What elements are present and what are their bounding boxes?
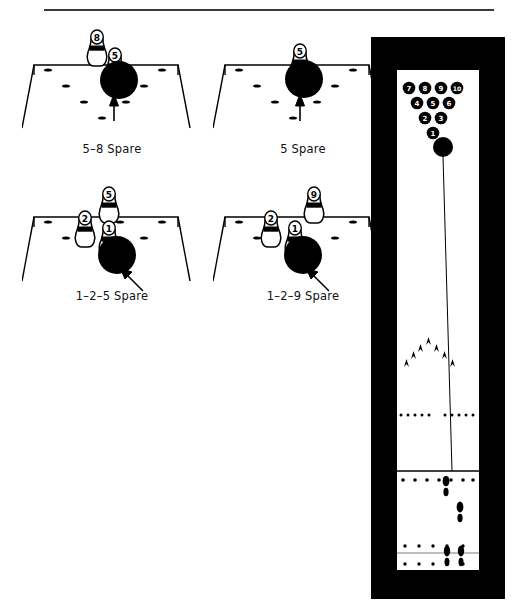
impact-arrow — [120, 268, 143, 291]
spare-diagram-5-8: 8 5 5–8 Spare — [22, 28, 202, 160]
page-root: 8 5 5–8 Spare — [0, 0, 517, 616]
spare-diagram-5-figure: 5 — [213, 28, 393, 140]
lane-pin-4-label: 4 — [415, 100, 420, 108]
bowling-ball — [285, 60, 323, 98]
header-divider-rule — [44, 9, 494, 11]
lane-diagram-figure: 7 8 9 10 4 5 6 — [371, 37, 505, 599]
spare-diagram-1-2-5-figure: 5 2 1 — [22, 175, 202, 293]
lane-pin-8-label: 8 — [423, 85, 428, 93]
spare-diagram-5: 5 5 Spare — [213, 28, 393, 160]
pin-5-number: 5 — [297, 47, 303, 57]
bowling-ball — [284, 236, 322, 274]
lane-pin-6-label: 6 — [447, 100, 452, 108]
lane-bowling-ball — [433, 137, 453, 157]
pin-1-number: 1 — [292, 224, 298, 234]
lane-pin-3-label: 3 — [439, 115, 444, 123]
pin-8: 8 — [87, 30, 107, 66]
lane-pin-5-label: 5 — [431, 100, 436, 108]
lane-pin-7-label: 7 — [407, 85, 412, 93]
pin-5-number: 5 — [112, 51, 118, 61]
lane-diagram: 7 8 9 10 4 5 6 — [371, 37, 505, 599]
lane-pin-9-label: 9 — [439, 85, 444, 93]
impact-arrow — [306, 268, 329, 291]
pin-9: 9 — [304, 187, 324, 223]
pin-row-third: 4 5 6 — [411, 97, 456, 110]
pin-8-number: 8 — [94, 33, 100, 43]
pin-2-number: 2 — [82, 214, 88, 224]
pin-row-head: 1 — [427, 127, 440, 140]
impact-arrow — [296, 94, 305, 121]
lane-pin-10-label: 10 — [453, 85, 462, 92]
pin-2-number: 2 — [268, 214, 274, 224]
spare-diagram-5-8-figure: 8 5 — [22, 28, 202, 140]
spare-diagram-1-2-9: 9 2 1 1–2–9 Spare — [213, 175, 393, 310]
spare-diagram-5-caption: 5 Spare — [213, 142, 393, 156]
pin-1-number: 1 — [106, 224, 112, 234]
spare-diagram-1-2-5: 5 2 1 1–2–5 Spare — [22, 175, 202, 310]
pin-5-number: 5 — [106, 190, 112, 200]
pin-5: 5 — [99, 187, 119, 223]
bowling-ball — [100, 61, 138, 99]
lane-pin-2-label: 2 — [423, 115, 428, 123]
spare-diagram-5-8-caption: 5–8 Spare — [22, 142, 202, 156]
pin-9-number: 9 — [311, 190, 317, 200]
bowling-ball — [98, 236, 136, 274]
lane-pin-1-label: 1 — [431, 130, 436, 138]
spare-diagram-1-2-9-caption: 1–2–9 Spare — [213, 289, 393, 303]
spare-diagram-1-2-5-caption: 1–2–5 Spare — [22, 289, 202, 303]
spare-diagram-1-2-9-figure: 9 2 1 — [213, 175, 393, 293]
